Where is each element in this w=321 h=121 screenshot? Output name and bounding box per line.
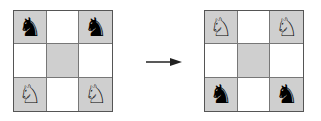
board-square: ♘ [205,11,238,44]
board-square: ♞ [79,11,112,44]
white-knight-icon: ♘ [18,81,41,107]
board-square [238,11,271,44]
board-square: ♞ [270,78,303,111]
board-square [47,44,80,77]
board-square: ♞ [205,78,238,111]
board-square [79,44,112,77]
board-square [205,44,238,77]
black-knight-icon: ♞ [84,14,107,40]
white-knight-icon: ♘ [84,81,107,107]
board-square [14,44,47,77]
board-square [238,78,271,111]
board-square: ♞ [14,11,47,44]
right-arrow-icon [146,57,182,67]
goal-board: ♘♘♞♞ [204,10,304,112]
board-square: ♘ [270,11,303,44]
board-square [47,11,80,44]
board-square [238,44,271,77]
board-square: ♘ [79,78,112,111]
white-knight-icon: ♘ [275,14,298,40]
board-square [47,78,80,111]
board-square: ♘ [14,78,47,111]
black-knight-icon: ♞ [275,81,298,107]
black-knight-icon: ♞ [209,81,232,107]
initial-board: ♞♞♘♘ [13,10,113,112]
board-square [270,44,303,77]
black-knight-icon: ♞ [18,14,41,40]
white-knight-icon: ♘ [209,14,232,40]
